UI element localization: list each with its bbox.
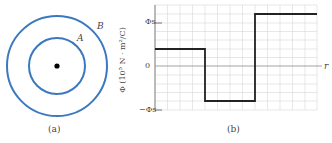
caption-b: (b) [227,124,240,134]
x-axis-label: r [324,61,328,71]
y-tick-label-phi-s: Φs [145,17,156,26]
label-a: A [77,33,84,43]
label-b: B [97,21,104,31]
y-tick-label-zero: 0 [145,61,150,70]
center-charge-dot [54,63,59,68]
caption-a: (a) [48,124,60,134]
y-tick-label-minus-phi-s: −Φs [139,105,156,114]
panel-a-diagram [7,16,107,116]
y-axis-label: Φ (10⁵ N · m²/C) [118,27,127,93]
flux-plot-grid [155,5,317,110]
figure [0,0,332,143]
